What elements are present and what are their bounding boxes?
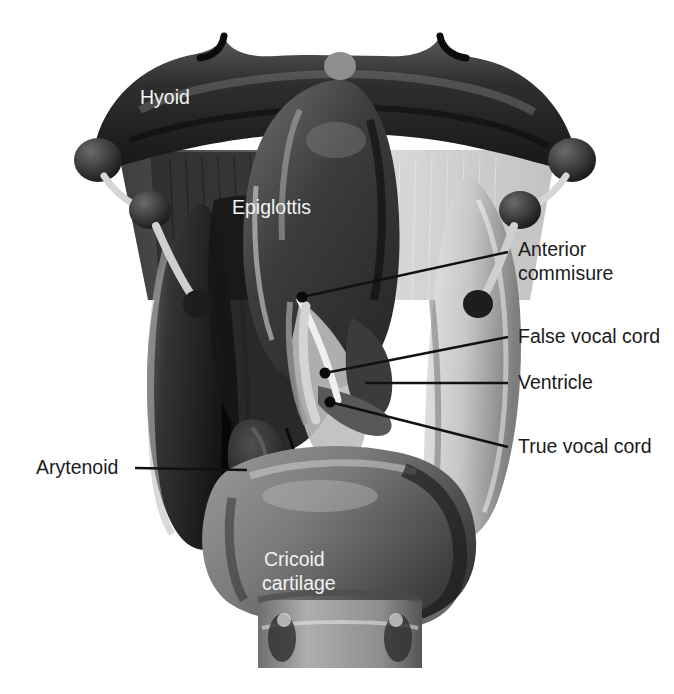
label-true-vocal-cord: True vocal cord <box>518 435 652 459</box>
figure-canvas: Hyoid Epiglottis Cricoid cartilage Anter… <box>0 0 674 694</box>
label-false-vocal-cord: False vocal cord <box>518 325 660 349</box>
hyoid-greater-horn-left <box>74 138 122 182</box>
label-epiglottis: Epiglottis <box>232 196 311 220</box>
dot-anterior-commisure <box>297 292 308 303</box>
dot-true-vocal-cord <box>325 397 336 408</box>
label-ventricle: Ventricle <box>518 371 593 395</box>
trachea <box>258 593 422 669</box>
label-cricoid-cartilage-line2: cartilage <box>262 572 336 596</box>
hyoid-greater-horn-right <box>548 138 596 182</box>
label-cricoid-cartilage-line1: Cricoid <box>264 548 325 572</box>
label-arytenoid: Arytenoid <box>36 456 118 480</box>
label-anterior-commisure-line2: commisure <box>518 262 613 286</box>
label-hyoid: Hyoid <box>140 86 190 110</box>
label-anterior-commisure-line1: Anterior <box>518 238 586 262</box>
epiglottis-tubercle <box>324 52 356 80</box>
dot-false-vocal-cord <box>320 368 331 379</box>
